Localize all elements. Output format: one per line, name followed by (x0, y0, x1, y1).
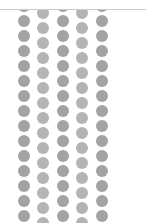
dot (96, 195, 108, 207)
dot (96, 120, 108, 132)
dot (18, 150, 30, 162)
dot (57, 75, 69, 87)
dot (57, 45, 69, 57)
dot (76, 67, 88, 79)
dot (96, 15, 108, 27)
dot (37, 202, 49, 214)
dot (96, 150, 108, 162)
dot (37, 172, 49, 184)
dot (18, 165, 30, 177)
dot (76, 22, 88, 34)
dot (18, 210, 30, 222)
dot (57, 30, 69, 42)
dot (18, 45, 30, 57)
dot (96, 165, 108, 177)
dot (18, 120, 30, 132)
pattern-swatch-page (0, 0, 146, 223)
dot (57, 195, 69, 207)
dot (18, 180, 30, 192)
dot (37, 22, 49, 34)
dot-column (96, 10, 108, 223)
dot (37, 157, 49, 169)
dot (57, 150, 69, 162)
dot (18, 10, 30, 12)
dot (76, 157, 88, 169)
dot (76, 172, 88, 184)
dot (76, 97, 88, 109)
dot (57, 135, 69, 147)
dot (76, 217, 88, 223)
dot (96, 90, 108, 102)
dot (37, 217, 49, 223)
dot (37, 10, 49, 19)
dot (37, 127, 49, 139)
dot (76, 112, 88, 124)
dot (57, 210, 69, 222)
dot (37, 82, 49, 94)
polka-dot-pattern (16, 10, 113, 223)
dot (76, 52, 88, 64)
dot (76, 142, 88, 154)
dot (96, 60, 108, 72)
dot (96, 135, 108, 147)
dot (96, 10, 108, 12)
dot (57, 60, 69, 72)
dot-column (18, 10, 30, 223)
dot (37, 142, 49, 154)
dot (18, 90, 30, 102)
dot (37, 97, 49, 109)
dot (57, 105, 69, 117)
dot (18, 195, 30, 207)
dot (18, 30, 30, 42)
dot (96, 30, 108, 42)
dot (37, 112, 49, 124)
dot (57, 90, 69, 102)
dot-column (37, 10, 49, 223)
dot (76, 127, 88, 139)
dot (96, 180, 108, 192)
dot (18, 15, 30, 27)
dot (18, 135, 30, 147)
dot (57, 15, 69, 27)
dot (96, 105, 108, 117)
dot-column (76, 10, 88, 223)
dot (96, 75, 108, 87)
dot (57, 180, 69, 192)
dot (76, 10, 88, 19)
dot (37, 52, 49, 64)
dot (37, 37, 49, 49)
dot (18, 60, 30, 72)
dot (57, 165, 69, 177)
dot (57, 120, 69, 132)
dot-column (57, 10, 69, 223)
dot (76, 37, 88, 49)
dot (96, 45, 108, 57)
dot (57, 10, 69, 12)
dot (76, 82, 88, 94)
dot (37, 187, 49, 199)
dot (76, 202, 88, 214)
dot (96, 210, 108, 222)
dot (18, 75, 30, 87)
dot (37, 67, 49, 79)
dot (18, 105, 30, 117)
dot (76, 187, 88, 199)
